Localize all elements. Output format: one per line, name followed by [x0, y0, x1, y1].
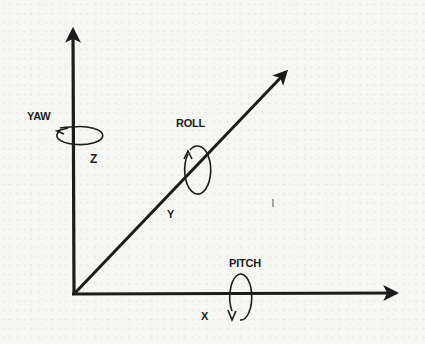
- roll-label: ROLL: [176, 118, 205, 129]
- yaw-rotation-icon: [57, 127, 103, 145]
- x-axis-label: X: [201, 311, 208, 322]
- z-axis: [73, 30, 74, 294]
- pitch-label: PITCH: [229, 258, 261, 269]
- axes-drawing: [0, 0, 425, 344]
- yaw-label: YAW: [27, 111, 50, 122]
- pitch-rotation-icon: [228, 274, 252, 320]
- axis-rotation-diagram: YAW Z ROLL Y PITCH X: [0, 0, 425, 344]
- y-axis-label: Y: [167, 209, 174, 220]
- x-axis: [72, 293, 396, 294]
- z-axis-label: Z: [90, 153, 97, 165]
- roll-rotation-icon: [184, 146, 211, 194]
